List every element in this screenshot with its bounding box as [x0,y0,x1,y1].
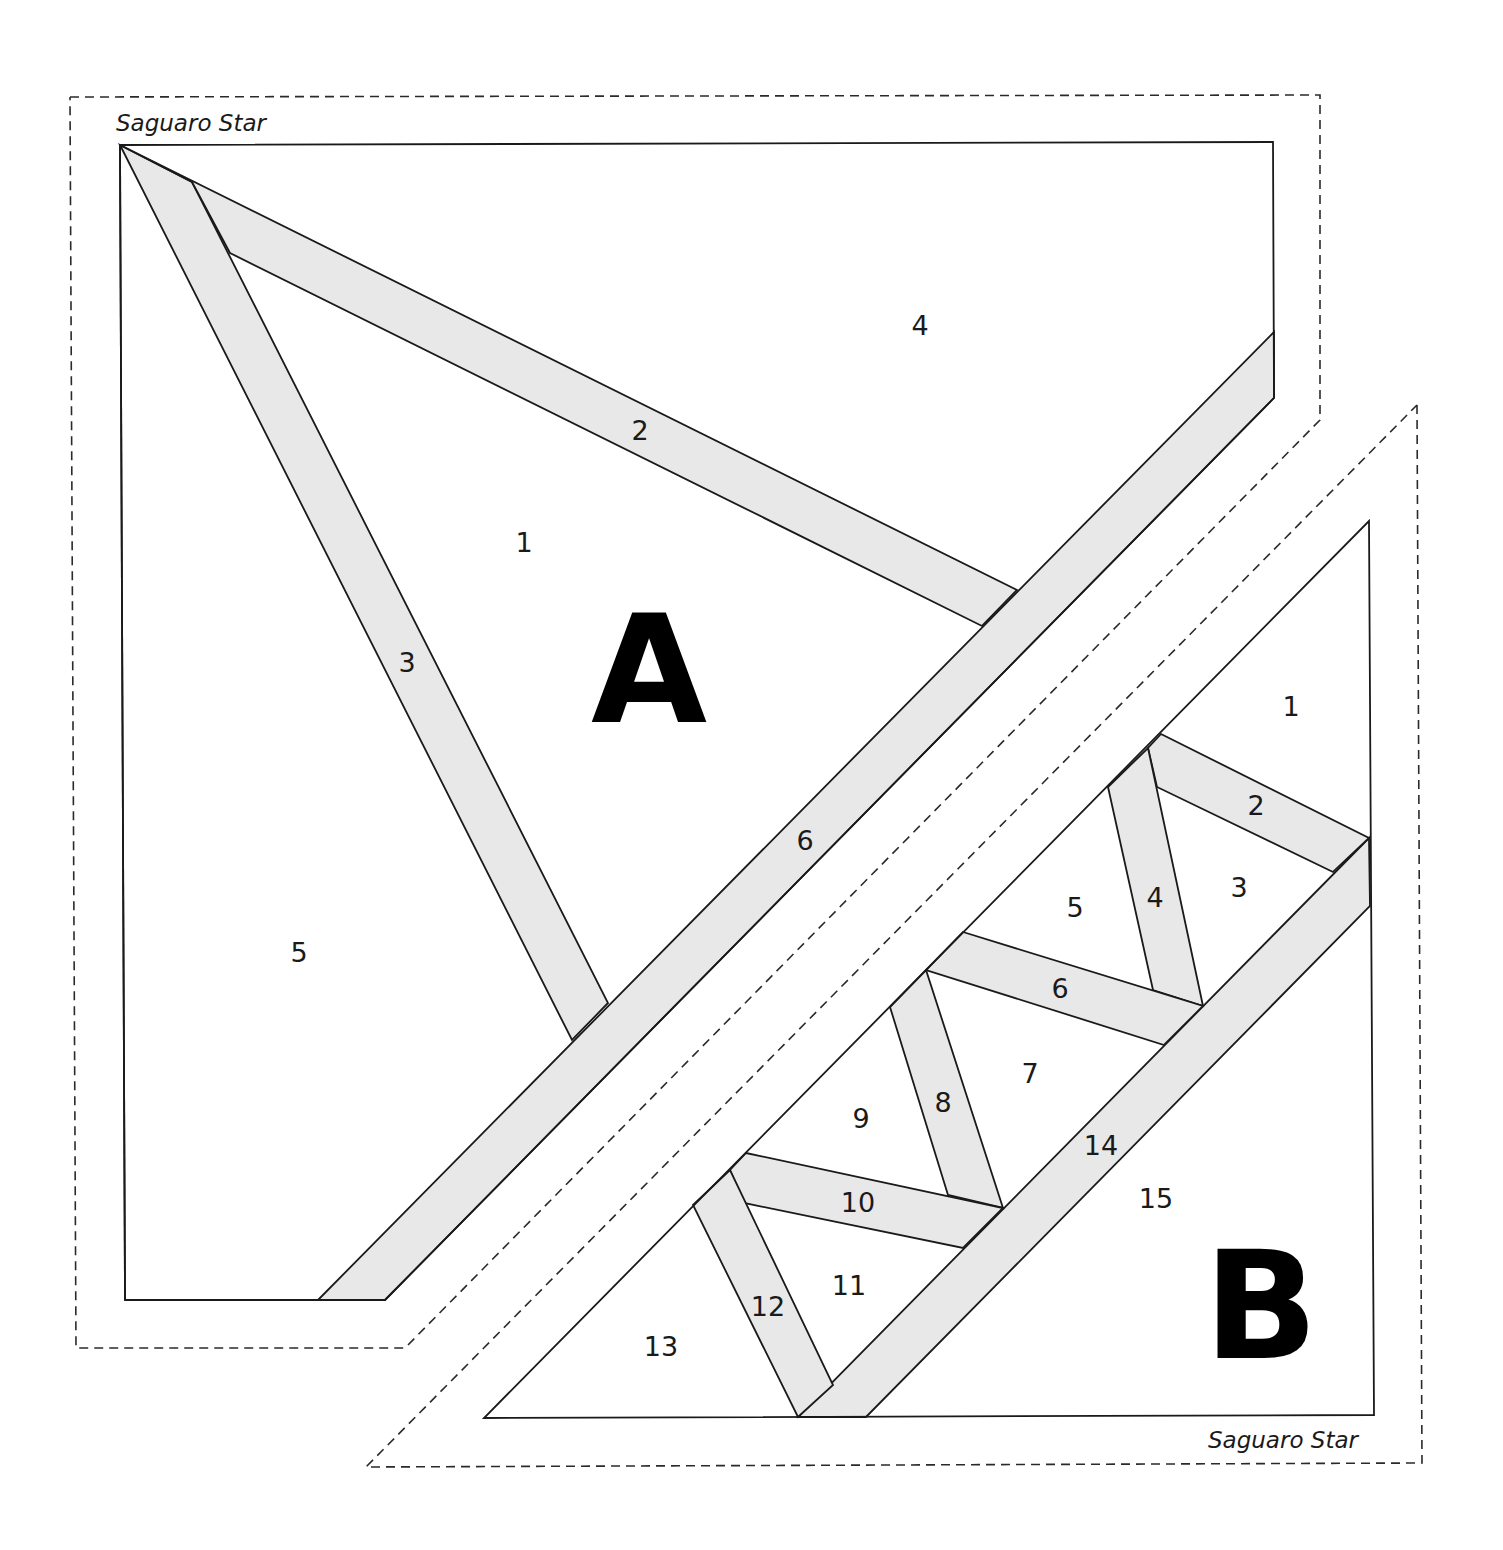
section-a-label-2: 2 [631,415,648,446]
section-b-label-7: 7 [1021,1058,1038,1089]
section-a-label-1: 1 [515,527,532,558]
foundation-pattern-diagram: 1 2 3 4 5 6 A Saguaro Star 1 2 3 4 5 6 [0,0,1503,1550]
section-a-left-edge [120,145,125,1300]
section-b-label-4: 4 [1146,882,1163,913]
section-b-label-1: 1 [1282,691,1299,722]
section-b-title: Saguaro Star [1208,1427,1360,1453]
section-a-title: Saguaro Star [116,110,268,136]
section-b-label-14: 14 [1084,1130,1118,1161]
section-b-label-8: 8 [934,1087,951,1118]
section-b-label-6: 6 [1051,973,1068,1004]
section-a-label-4: 4 [911,310,928,341]
section-b-label-10: 10 [841,1187,875,1218]
section-a-label-3: 3 [398,647,415,678]
section-b-label-11: 11 [832,1270,866,1301]
section-a-letter: A [591,583,707,757]
section-b-label-12: 12 [751,1291,785,1322]
section-a-label-6: 6 [796,825,813,856]
section-b-letter: B [1204,1219,1318,1393]
section-b-label-5: 5 [1066,892,1083,923]
section-b-label-15: 15 [1139,1183,1173,1214]
section-a: 1 2 3 4 5 6 A Saguaro Star [70,95,1320,1348]
section-b-label-9: 9 [852,1103,869,1134]
section-a-label-5: 5 [290,937,307,968]
section-b-label-13: 13 [644,1331,678,1362]
section-b-label-3: 3 [1230,872,1247,903]
section-b-label-2: 2 [1247,790,1264,821]
